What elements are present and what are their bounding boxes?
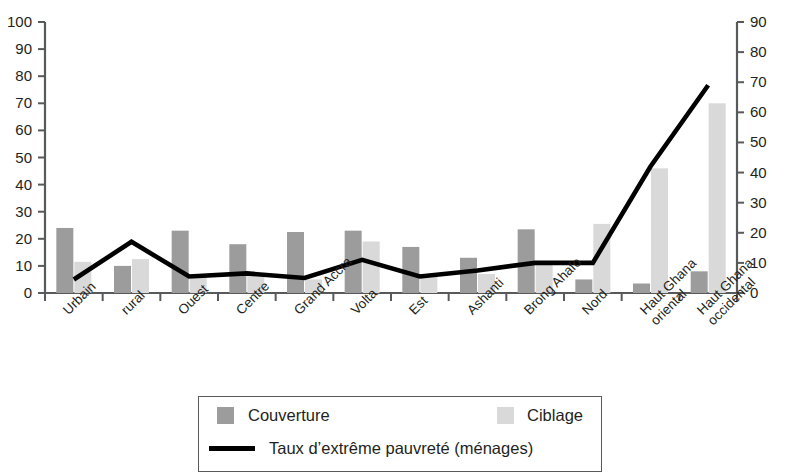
left-axis-tick-10: 10 <box>0 258 32 273</box>
legend-label-ciblage: Ciblage <box>527 406 583 425</box>
right-axis-tick-70: 70 <box>750 74 767 89</box>
left-axis-tick-60: 60 <box>0 122 32 137</box>
legend-item-ciblage: Ciblage <box>497 406 583 425</box>
left-axis-tick-70: 70 <box>0 95 32 110</box>
right-axis-tick-30: 30 <box>750 195 767 210</box>
legend-item-poverty-rate: Taux d’extrême pauvreté (ménages) <box>209 439 533 458</box>
legend-line-swatch <box>209 446 255 451</box>
legend-label-couverture: Couverture <box>248 406 330 425</box>
left-axis-tick-80: 80 <box>0 68 32 83</box>
legend-swatch-couverture <box>217 407 234 424</box>
bar-couverture-1 <box>114 266 131 293</box>
left-axis-tick-40: 40 <box>0 177 32 192</box>
legend-swatch-ciblage <box>497 407 514 424</box>
right-axis-tick-80: 80 <box>750 44 767 59</box>
right-axis-tick-90: 90 <box>750 14 767 29</box>
right-axis-tick-40: 40 <box>750 165 767 180</box>
bar-couverture-0 <box>56 228 73 293</box>
left-axis-tick-0: 0 <box>0 285 32 300</box>
left-axis-tick-50: 50 <box>0 150 32 165</box>
legend-item-couverture: Couverture <box>217 406 330 425</box>
poverty-rate-line <box>74 85 708 279</box>
chart-legend: Couverture Ciblage Taux d’extrême pauvre… <box>198 396 602 472</box>
left-axis-tick-90: 90 <box>0 41 32 56</box>
bar-couverture-4 <box>287 232 304 293</box>
bar-couverture-3 <box>229 244 246 293</box>
bar-ciblage-11 <box>709 103 726 293</box>
left-axis-tick-100: 100 <box>0 14 32 29</box>
bar-couverture-10 <box>633 284 650 293</box>
left-axis-tick-30: 30 <box>0 204 32 219</box>
bar-ciblage-1 <box>132 259 149 293</box>
bar-couverture-2 <box>172 231 189 293</box>
right-axis-tick-60: 60 <box>750 104 767 119</box>
bar-couverture-7 <box>460 258 477 293</box>
left-axis-tick-20: 20 <box>0 231 32 246</box>
right-axis-tick-20: 20 <box>750 225 767 240</box>
right-axis-tick-50: 50 <box>750 134 767 149</box>
bar-ciblage-6 <box>420 277 437 293</box>
bar-couverture-9 <box>575 279 592 293</box>
bar-ciblage-10 <box>651 168 668 293</box>
bar-ciblage-5 <box>363 242 380 293</box>
legend-label-poverty-rate: Taux d’extrême pauvreté (ménages) <box>269 439 533 458</box>
